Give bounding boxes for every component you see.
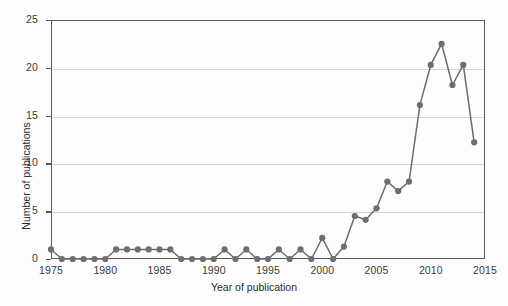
data-point bbox=[189, 256, 195, 262]
x-axis-title: Year of publication bbox=[0, 281, 508, 293]
data-point bbox=[59, 256, 65, 262]
data-point bbox=[460, 62, 466, 68]
y-tick-label-25: 25 bbox=[4, 13, 38, 25]
data-point bbox=[373, 205, 379, 211]
publications-line-chart: 0510152025 19751980198519901995200020052… bbox=[0, 0, 508, 306]
data-point bbox=[156, 246, 162, 252]
data-point bbox=[308, 256, 314, 262]
data-point bbox=[287, 256, 293, 262]
y-axis-title: Number of publications bbox=[20, 96, 32, 256]
x-tick-label-1995: 1995 bbox=[245, 264, 291, 276]
data-point bbox=[428, 62, 434, 68]
data-point bbox=[363, 217, 369, 223]
data-point bbox=[124, 246, 130, 252]
data-point bbox=[395, 188, 401, 194]
data-point bbox=[222, 246, 228, 252]
data-point bbox=[319, 235, 325, 241]
series-line bbox=[51, 44, 474, 259]
data-point bbox=[254, 256, 260, 262]
x-tick-label-1980: 1980 bbox=[82, 264, 128, 276]
data-point bbox=[439, 41, 445, 47]
y-tick-mark-0 bbox=[46, 259, 51, 260]
data-point bbox=[178, 256, 184, 262]
data-point bbox=[167, 246, 173, 252]
data-point bbox=[200, 256, 206, 262]
data-point bbox=[449, 82, 455, 88]
data-point bbox=[341, 243, 347, 249]
data-point bbox=[70, 256, 76, 262]
data-point bbox=[113, 246, 119, 252]
data-point bbox=[276, 246, 282, 252]
data-point bbox=[135, 246, 141, 252]
data-point bbox=[384, 178, 390, 184]
data-series bbox=[51, 20, 485, 259]
data-point bbox=[406, 178, 412, 184]
data-point bbox=[243, 246, 249, 252]
data-point bbox=[352, 213, 358, 219]
data-point bbox=[91, 256, 97, 262]
y-axis-title-wrap: Number of publications bbox=[8, 60, 24, 220]
data-point bbox=[330, 256, 336, 262]
data-point bbox=[232, 256, 238, 262]
x-tick-label-1985: 1985 bbox=[137, 264, 183, 276]
x-tick-label-2010: 2010 bbox=[408, 264, 454, 276]
data-point bbox=[265, 256, 271, 262]
x-tick-label-2005: 2005 bbox=[354, 264, 400, 276]
x-tick-label-1975: 1975 bbox=[28, 264, 74, 276]
x-tick-label-2015: 2015 bbox=[462, 264, 508, 276]
data-point bbox=[471, 139, 477, 145]
data-point bbox=[211, 256, 217, 262]
data-point bbox=[80, 256, 86, 262]
data-point bbox=[297, 246, 303, 252]
data-point bbox=[417, 102, 423, 108]
x-tick-label-1990: 1990 bbox=[191, 264, 237, 276]
data-point bbox=[102, 256, 108, 262]
data-point bbox=[48, 246, 54, 252]
data-point bbox=[146, 246, 152, 252]
x-tick-label-2000: 2000 bbox=[299, 264, 345, 276]
